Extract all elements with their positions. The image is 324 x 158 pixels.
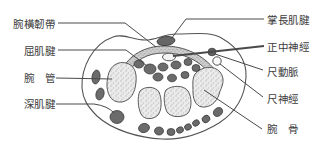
carpal-bone-shape [138, 87, 161, 118]
label-palmaris-longus-tendon: 掌長肌腱 [267, 14, 309, 26]
tendon-dot [134, 60, 144, 68]
label-flexor-tendon: 屈肌腱 [24, 45, 56, 57]
deep-tendon-dot [155, 127, 164, 135]
carpal-bone-shape [107, 63, 136, 103]
tendon-dot [181, 72, 189, 79]
label-carpal-tunnel: 腕 管 [24, 72, 56, 84]
deep-tendon-dot [167, 129, 175, 136]
tendon-dot [192, 65, 200, 72]
label-ulnar-nerve: 尺神經 [267, 93, 299, 105]
label-deep-tendon: 深肌腱 [24, 98, 56, 110]
tendon-dot [168, 74, 177, 82]
label-median-nerve: 正中神經 [267, 41, 309, 53]
ulnar-nerve-shape [213, 57, 221, 65]
wrist-cross-section-figure: 腕橫韌帶 屈肌腱 腕 管 深肌腱 掌長肌腱 正中神經 尺動脈 尺神經 腕 骨 [0, 0, 324, 158]
label-ulnar-artery: 尺動脈 [267, 66, 299, 78]
tendon-dot [158, 63, 168, 71]
carpal-bone-shape [164, 86, 191, 116]
tendon-dot [184, 59, 192, 66]
tendon-dot [171, 61, 181, 69]
median-nerve-shape [163, 53, 176, 61]
label-carpal-bone: 腕 骨 [267, 123, 299, 135]
deep-tendon-dot [110, 111, 124, 124]
tendon-dot [153, 73, 163, 81]
label-transverse-carpal-ligament: 腕橫韌帶 [13, 18, 55, 30]
